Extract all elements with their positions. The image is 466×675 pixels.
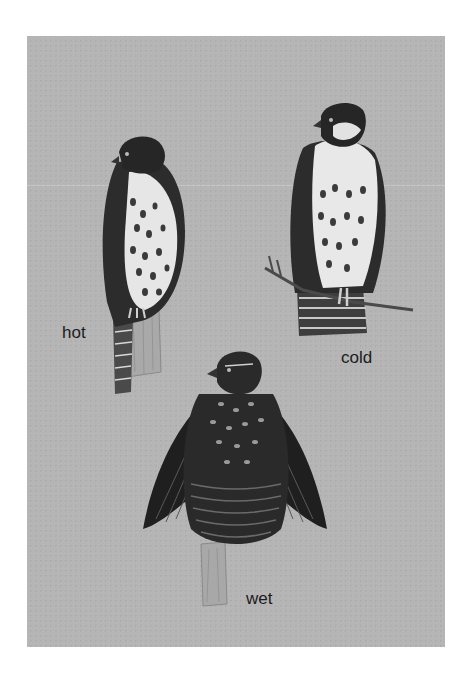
label-hot: hot [62, 324, 86, 341]
label-wet: wet [246, 590, 272, 607]
illustration-plate: hot cold [27, 36, 445, 647]
hawk-wet-illustration [141, 344, 331, 614]
label-cold: cold [341, 349, 372, 366]
hawk-cold-illustration [263, 98, 413, 343]
